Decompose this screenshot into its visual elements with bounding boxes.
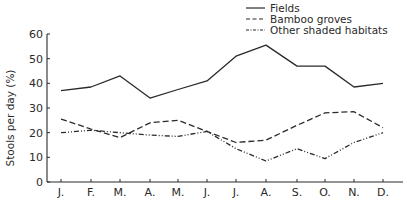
y-tick-label: 50 xyxy=(29,53,43,66)
series-line-bamboo-groves xyxy=(61,112,383,143)
x-tick-label: O. xyxy=(319,186,331,199)
x-tick-label: M. xyxy=(172,186,185,199)
series-line-fields xyxy=(61,45,383,98)
legend-item-label: Other shaded habitats xyxy=(270,24,388,36)
y-tick-label: 30 xyxy=(29,102,43,115)
y-tick-label: 10 xyxy=(29,151,43,164)
data-series xyxy=(61,45,383,161)
y-tick-label: 60 xyxy=(29,28,43,41)
legend: FieldsBamboo grovesOther shaded habitats xyxy=(246,2,388,36)
x-tick-label: D. xyxy=(377,186,389,199)
x-tick-label: J. xyxy=(57,186,65,199)
line-chart: FieldsBamboo grovesOther shaded habitats… xyxy=(0,0,407,201)
x-tick-label: J. xyxy=(203,186,211,199)
x-tick-label: M. xyxy=(114,186,127,199)
y-tick-label: 40 xyxy=(29,77,43,90)
x-tick-label: S. xyxy=(292,186,302,199)
x-tick-label: F. xyxy=(87,186,95,199)
x-tick-label: N. xyxy=(348,186,360,199)
y-tick-label: 0 xyxy=(36,176,43,189)
y-axis: 0102030405060 xyxy=(29,28,50,189)
x-tick-label: A. xyxy=(145,186,156,199)
x-tick-label: A. xyxy=(261,186,272,199)
y-tick-label: 20 xyxy=(29,127,43,140)
x-tick-label: J. xyxy=(232,186,240,199)
x-axis: J.F.M.A.M.J.J.A.S.O.N.D. xyxy=(47,179,403,199)
y-axis-title: Stools per day (%) xyxy=(4,70,16,167)
